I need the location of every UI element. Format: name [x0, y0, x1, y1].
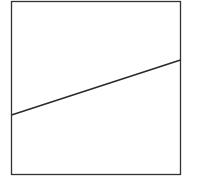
- diagram-canvas: [0, 0, 199, 182]
- sloped-line: [12, 60, 181, 115]
